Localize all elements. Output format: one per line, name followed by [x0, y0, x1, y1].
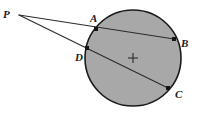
point-label-d: D: [75, 52, 83, 63]
geometry-figure: P A B D C: [0, 0, 198, 115]
point-label-p: P: [3, 9, 10, 20]
geometry-canvas: [0, 0, 198, 115]
point-label-b: B: [181, 38, 188, 49]
point-label-a: A: [90, 13, 97, 24]
point-label-c: C: [175, 89, 182, 100]
